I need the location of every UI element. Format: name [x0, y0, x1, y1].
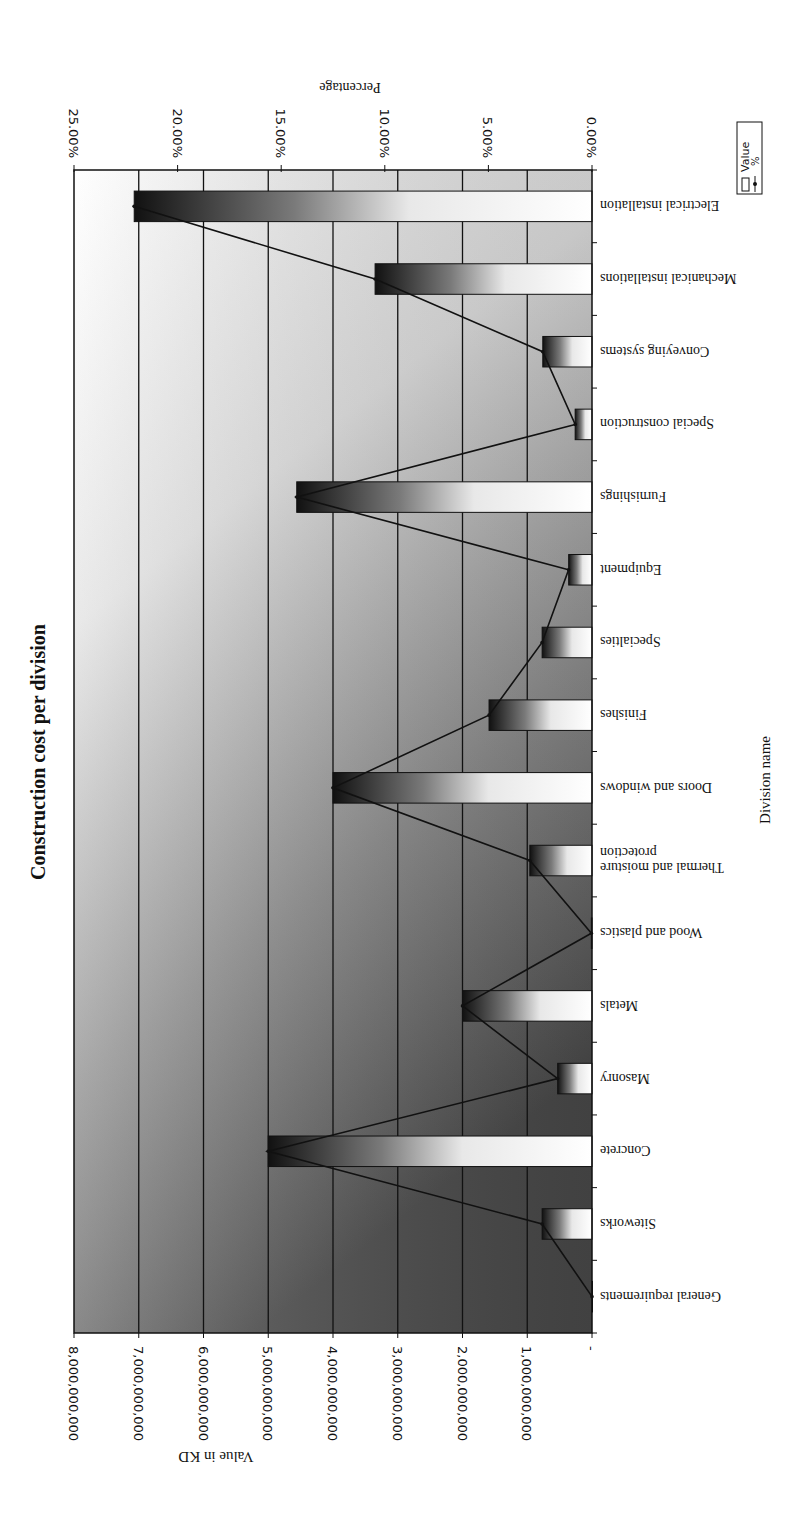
- percent-marker-icon: [528, 859, 532, 863]
- percent-marker-icon: [541, 350, 545, 354]
- value-tick-label: 4,000,000,000: [325, 1346, 340, 1441]
- category-label: Concrete: [600, 1143, 651, 1158]
- category-label-line: protection: [600, 845, 657, 860]
- bar-specialties: [542, 627, 592, 658]
- percent-marker-icon: [567, 568, 571, 572]
- category-label: Thermal and moistureprotection: [600, 845, 724, 875]
- bar-electrical-installation: [134, 191, 592, 222]
- category-label-line: Masonry: [600, 1071, 650, 1086]
- category-label-line: Conveying systems: [600, 344, 709, 359]
- value-tick-label: 6,000,000,000: [196, 1346, 211, 1441]
- value-tick-label: 2,000,000,000: [455, 1346, 470, 1441]
- percent-marker-icon: [132, 205, 136, 209]
- percent-marker-icon: [540, 641, 544, 645]
- percent-marker-icon: [373, 277, 377, 281]
- chart-svg: -1,000,000,0002,000,000,0003,000,000,000…: [0, 0, 801, 1517]
- category-label: Metals: [600, 998, 638, 1013]
- value-tick-label: 5,000,000,000: [260, 1346, 275, 1441]
- bar-furnishings: [297, 482, 592, 513]
- category-label: Masonry: [600, 1071, 650, 1086]
- category-label: Mechanical installations: [600, 271, 736, 286]
- category-label: Finishes: [600, 707, 647, 722]
- percent-tick-label: 25.00%: [66, 108, 81, 158]
- legend-label-percent: %: [750, 156, 761, 166]
- chart-title: Construction cost per division: [27, 624, 50, 880]
- value-tick-label: 7,000,000,000: [131, 1346, 146, 1441]
- category-label-line: Finishes: [600, 707, 647, 722]
- chart-figure: -1,000,000,0002,000,000,0003,000,000,000…: [0, 0, 801, 1517]
- category-axis-title: Division name: [757, 736, 773, 824]
- category-label-line: Special construction: [600, 416, 714, 431]
- category-label-line: Furnishings: [600, 489, 666, 504]
- value-tick-label: -: [584, 1346, 599, 1351]
- category-axis: General requirementsSiteworksConcreteMas…: [592, 170, 736, 1333]
- bar-doors-and-windows: [333, 773, 592, 804]
- percent-marker-icon: [461, 1004, 465, 1008]
- bar-masonry: [558, 1063, 592, 1094]
- percent-tick-label: 10.00%: [377, 108, 392, 158]
- bar-equipment: [569, 555, 592, 586]
- category-label: Electrical installation: [600, 198, 719, 213]
- percent-marker-icon: [331, 786, 335, 790]
- bar-mechanical-installations: [375, 264, 592, 295]
- category-label-line: Concrete: [600, 1143, 651, 1158]
- category-label: Conveying systems: [600, 344, 709, 359]
- legend-marker-dot-icon: [753, 182, 757, 186]
- category-label: Special construction: [600, 416, 714, 431]
- percent-marker-icon: [573, 423, 577, 427]
- percent-marker-icon: [540, 1222, 544, 1226]
- value-tick-label: 1,000,000,000: [519, 1346, 534, 1441]
- value-axis: -1,000,000,0002,000,000,0003,000,000,000…: [66, 1333, 599, 1441]
- category-label: Furnishings: [600, 489, 666, 504]
- plot-area: [74, 170, 594, 1333]
- category-label-line: Metals: [600, 998, 638, 1013]
- category-label: Siteworks: [600, 1216, 656, 1231]
- category-label-line: Siteworks: [600, 1216, 656, 1231]
- percent-marker-icon: [487, 713, 491, 717]
- value-tick-label: 3,000,000,000: [390, 1346, 405, 1441]
- category-label-line: Doors and windows: [600, 780, 712, 795]
- category-label-line: Electrical installation: [600, 198, 719, 213]
- category-label-line: Mechanical installations: [600, 271, 736, 286]
- percent-marker-icon: [295, 495, 299, 499]
- category-label: Equipment: [600, 562, 662, 577]
- category-label-line: Wood and plastics: [600, 925, 702, 940]
- percent-marker-icon: [556, 1077, 560, 1081]
- percent-marker-icon: [266, 1149, 270, 1153]
- bar-special-construction: [575, 409, 592, 440]
- percent-tick-label: 20.00%: [170, 108, 185, 158]
- category-label-line: General requirements: [600, 1289, 721, 1304]
- legend: Value %: [737, 122, 762, 194]
- percent-tick-label: 5.00%: [480, 117, 495, 158]
- percentage-axis: 0.00%5.00%10.00%15.00%20.00%25.00%: [66, 108, 599, 172]
- bar-concrete: [268, 1136, 592, 1167]
- category-label-line: Equipment: [600, 562, 662, 577]
- category-label-line: Specialties: [600, 634, 661, 649]
- category-label: Doors and windows: [600, 780, 712, 795]
- legend-bar-swatch-icon: [742, 178, 749, 191]
- category-label: Wood and plastics: [600, 925, 702, 940]
- value-tick-label: 8,000,000,000: [66, 1346, 81, 1441]
- category-label: General requirements: [600, 1289, 721, 1304]
- category-label-line: Thermal and moisture: [600, 860, 724, 875]
- bar-finishes: [489, 700, 592, 731]
- percent-tick-label: 15.00%: [273, 108, 288, 158]
- bar-conveying-systems: [543, 336, 592, 367]
- percent-tick-label: 0.00%: [584, 117, 599, 158]
- value-axis-title: Value in KD: [178, 1449, 253, 1465]
- percentage-axis-title: Percentage: [319, 80, 380, 95]
- category-label: Specialties: [600, 634, 661, 649]
